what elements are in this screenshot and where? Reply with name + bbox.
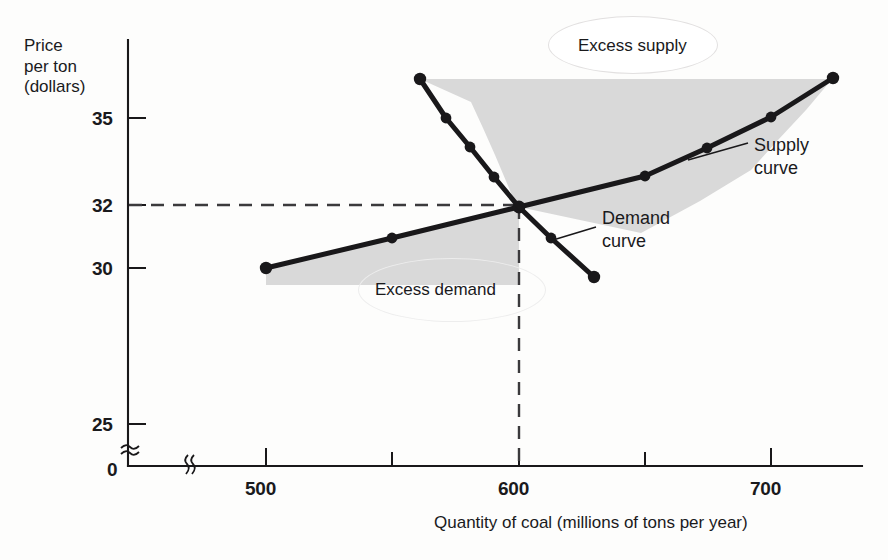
y-axis-ticks: [128, 118, 146, 424]
y-tick-label-32: 32: [92, 194, 113, 217]
supply-curve-label-line-1: Supply: [754, 135, 809, 155]
supply-demand-chart-figure: Priceper ton(dollars) 35 32 30 25 0 500 …: [0, 0, 888, 560]
demand-curve-label-line-1: Demand: [602, 208, 670, 228]
x-tick-label-500: 500: [245, 477, 276, 500]
y-tick-label-35: 35: [92, 107, 113, 130]
demand-curve-label-line-2: curve: [602, 231, 646, 251]
y-axis-title-line-3: (dollars): [24, 77, 85, 96]
y-axis-break-icon: [121, 445, 139, 455]
demand-curve-label: Demandcurve: [602, 207, 670, 254]
x-axis-title: Quantity of coal (millions of tons per y…: [434, 513, 748, 534]
x-tick-label-700: 700: [750, 477, 781, 500]
y-axis-title: Priceper ton(dollars): [24, 36, 85, 98]
y-tick-label-25: 25: [92, 413, 113, 436]
y-axis-title-line-1: Price: [24, 36, 63, 55]
y-axis-title-line-2: per ton: [24, 57, 77, 76]
y-tick-label-0: 0: [107, 458, 117, 481]
supply-curve-label: Supplycurve: [754, 134, 809, 181]
excess-demand-label: Excess demand: [375, 280, 496, 301]
y-tick-label-30: 30: [92, 257, 113, 280]
x-tick-label-600: 600: [498, 477, 529, 500]
excess-supply-label: Excess supply: [578, 36, 687, 57]
demand-curve-leader-line: [553, 227, 596, 240]
x-axis-break-icon: [185, 455, 195, 474]
supply-curve-label-line-2: curve: [754, 158, 798, 178]
